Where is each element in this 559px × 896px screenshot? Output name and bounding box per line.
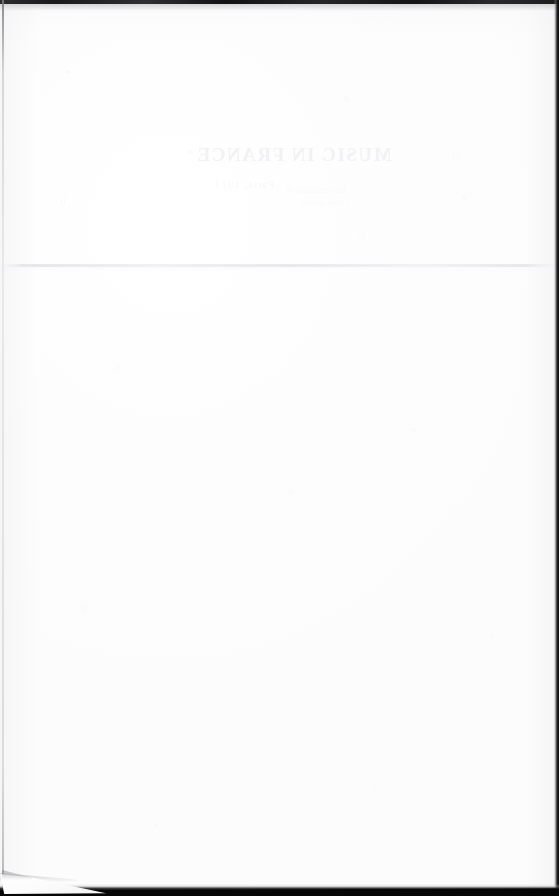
paper-sheet [0, 0, 559, 896]
scanned-page: MUSIC IN FRANCE Paris, 1913 the orchestr… [0, 0, 559, 896]
